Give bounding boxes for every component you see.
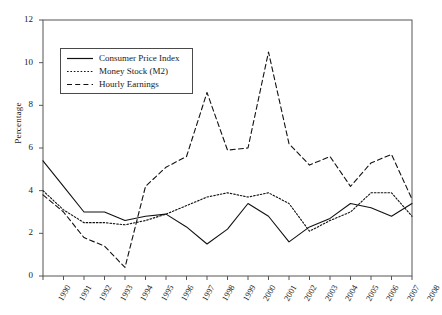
y-tick-label: 6: [9, 142, 33, 152]
y-tick-label: 2: [9, 227, 33, 237]
y-tick-label: 8: [9, 99, 33, 109]
series-line-money-stock-m2: [43, 191, 412, 232]
legend-item: Consumer Price Index: [65, 52, 188, 65]
legend-line-sample: [65, 79, 95, 90]
legend-line-sample: [65, 66, 95, 77]
legend-label: Money Stock (M2): [99, 66, 168, 77]
y-tick-label: 0: [9, 270, 33, 280]
legend-item: Hourly Earnings: [65, 78, 188, 91]
y-tick-label: 12: [9, 14, 33, 24]
legend-label: Consumer Price Index: [99, 53, 179, 64]
legend-line-sample: [65, 53, 95, 64]
series-line-consumer-price-index: [43, 161, 412, 244]
legend-item: Money Stock (M2): [65, 65, 188, 78]
legend-label: Hourly Earnings: [99, 79, 159, 90]
y-tick-label: 4: [9, 185, 33, 195]
chart-legend: Consumer Price IndexMoney Stock (M2)Hour…: [60, 48, 193, 94]
y-tick-label: 10: [9, 57, 33, 67]
